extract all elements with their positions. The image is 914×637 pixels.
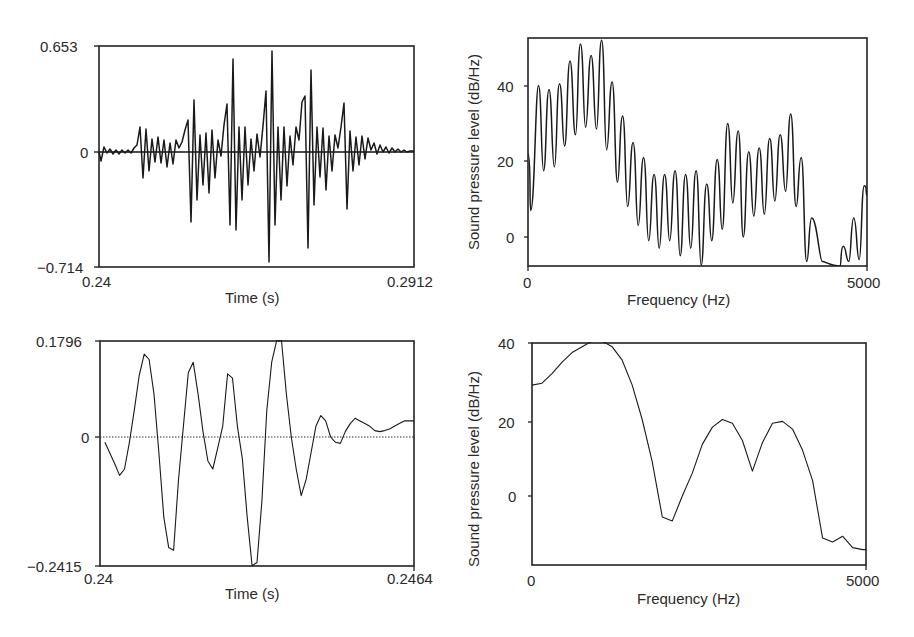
spectrum-trace [532,341,866,549]
y-tick-min: −0.2415 [27,559,82,574]
plot-frame [100,341,414,566]
y-axis-label: Sound pressure level (dB/Hz) [466,54,481,250]
waveform-trace [105,341,414,566]
x-tick-min: 0.24 [82,274,111,289]
x-tick-min: 0.24 [84,571,113,586]
y-tick-40: 40 [498,336,515,351]
spectrum-plot-top-right: Sound pressure level (dB/Hz) 40 20 0 0 5… [460,0,914,320]
y-tick-max: 0.1796 [36,334,82,349]
x-axis-label: Time (s) [225,290,279,305]
spectrum-trace [528,40,867,266]
spectrum-top-right-svg [460,0,914,320]
x-tick-max: 0.2464 [387,571,433,586]
waveform-trace [99,51,414,262]
waveform-plot-top-left: 0.653 0 −0.714 0.24 0.2912 Time (s) [0,0,460,320]
x-axis-label: Frequency (Hz) [637,591,740,606]
spectrum-plot-bottom-right: Sound pressure level (dB/Hz) 40 20 0 0 5… [460,320,914,620]
plot-frame [99,46,414,267]
x-axis-label: Time (s) [225,586,279,601]
x-axis-label: Frequency (Hz) [627,292,730,307]
y-tick-20: 20 [498,415,515,430]
y-tick-20: 20 [497,154,514,169]
y-tick-0: 0 [506,230,514,245]
y-tick-0: 0 [508,489,516,504]
y-tick-40: 40 [497,79,514,94]
waveform-plot-bottom-left: 0.1796 0 −0.2415 0.24 0.2464 Time (s) [0,320,460,620]
x-tick-max: 0.2912 [387,274,433,289]
y-tick-zero: 0 [80,145,88,160]
y-tick-zero: 0 [81,430,89,445]
y-tick-max: 0.653 [40,39,78,54]
y-axis-label: Sound pressure level (dB/Hz) [466,371,481,567]
y-tick-min: −0.714 [37,260,83,275]
cropped-caption-text [0,630,914,637]
x-tick-max: 5000 [846,573,879,588]
x-tick-min: 0 [527,573,535,588]
x-tick-min: 0 [523,275,531,290]
x-tick-max: 5000 [847,275,880,290]
